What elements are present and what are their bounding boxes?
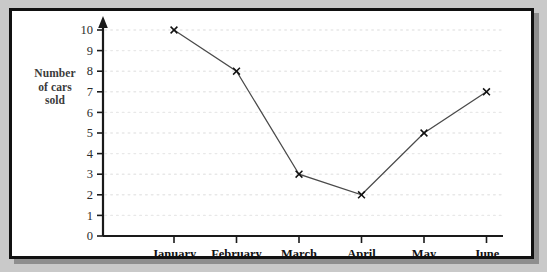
gridlines-group <box>105 30 503 215</box>
y-axis-tick-label: 8 <box>87 64 93 78</box>
plot-area: Number of cars sold 012345678910 January… <box>12 11 531 256</box>
chart-screenshot: Number of cars sold 012345678910 January… <box>0 0 547 272</box>
x-axis-tick-labels-group: JanuaryFebruaryMarchAprilMayJune <box>152 247 500 256</box>
y-axis-tick-label: 7 <box>87 85 93 99</box>
y-axis-tick-label: 9 <box>87 44 93 58</box>
x-axis-tick-label: June <box>474 247 500 256</box>
x-axis-tick-label: January <box>152 247 197 256</box>
data-point-marker <box>421 130 428 137</box>
y-axis-tick-label: 6 <box>87 106 93 120</box>
x-axis-tick-label: March <box>281 247 317 256</box>
y-axis-arrow-icon <box>98 16 108 28</box>
data-point-marker <box>358 191 365 198</box>
y-axis-tick-label: 10 <box>81 23 94 37</box>
y-axis-tick-label: 0 <box>87 229 93 243</box>
y-axis-tick-labels-group: 012345678910 <box>81 23 94 243</box>
y-axis-tick-label: 2 <box>87 188 93 202</box>
y-axis-tick-label: 4 <box>87 147 94 161</box>
x-axis-tick-label: May <box>412 247 437 256</box>
chart-frame: Number of cars sold 012345678910 January… <box>9 8 534 259</box>
x-axis-tick-label: February <box>211 247 262 256</box>
x-axis-tick-label: April <box>347 247 376 256</box>
y-axis-tick-label: 1 <box>87 209 93 223</box>
line-chart-svg: 012345678910 JanuaryFebruaryMarchAprilMa… <box>12 11 531 256</box>
y-axis-tick-label: 3 <box>87 167 93 181</box>
y-axis-tick-label: 5 <box>87 126 93 140</box>
